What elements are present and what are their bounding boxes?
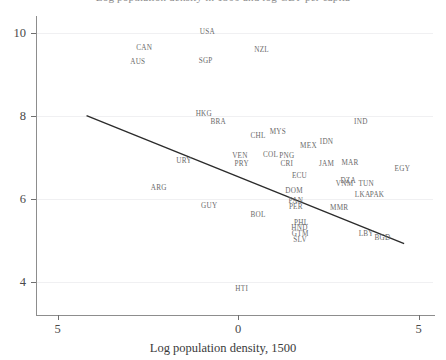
x-tick-mark — [58, 315, 59, 320]
data-point-label: MEX — [300, 142, 317, 150]
data-point-label: TUN — [358, 180, 374, 188]
chart-title: Log population density in 1500 and log G… — [0, 0, 446, 3]
data-point-label: GUY — [201, 202, 217, 210]
data-point-label: VEN — [232, 152, 248, 160]
data-point-label: DOM — [285, 187, 303, 195]
data-point-label: SLV — [293, 236, 307, 244]
plot-area: USACANNZLAUSSGPHKGBRAINDMYSCHLMEXIDNCOLP… — [36, 16, 433, 311]
y-tick-label: 4 — [0, 276, 26, 289]
y-tick-mark — [31, 33, 36, 34]
data-point-label: HTI — [235, 285, 248, 293]
data-point-label: ARG — [151, 184, 167, 192]
data-point-label: JAM — [319, 160, 334, 168]
data-point-label: LBY — [359, 230, 374, 238]
y-tick-mark — [31, 116, 36, 117]
y-axis-line — [36, 16, 37, 315]
y-tick-label: 8 — [0, 110, 26, 123]
y-tick-label: 10 — [0, 27, 26, 40]
data-point-label: MMR — [330, 204, 348, 212]
data-point-label: BGD — [375, 234, 391, 242]
data-point-label: CHL — [250, 132, 265, 140]
data-point-label: BOL — [250, 211, 265, 219]
data-point-label: LKA — [355, 191, 371, 199]
data-point-label: PER — [289, 203, 303, 211]
scatter-chart: Log population density in 1500 and log G… — [0, 0, 446, 360]
data-point-label: IDN — [320, 138, 334, 146]
x-axis-title: Log population density, 1500 — [0, 341, 446, 356]
data-point-label: CAN — [136, 44, 152, 52]
data-point-label: USA — [200, 28, 215, 36]
data-point-label: EGY — [395, 165, 411, 173]
data-point-label: IND — [354, 118, 368, 126]
data-point-label: SGP — [199, 57, 213, 65]
y-tick-label: 6 — [0, 193, 26, 206]
data-point-label: NZL — [254, 46, 269, 54]
data-point-label: PAK — [370, 191, 384, 199]
data-point-label: PRY — [235, 160, 249, 168]
data-point-label: CRI — [280, 160, 293, 168]
data-point-label: ECU — [292, 172, 307, 180]
x-tick-label: 5 — [55, 323, 61, 336]
x-tick-mark — [419, 315, 420, 320]
data-point-label: VNM — [336, 180, 354, 188]
y-tick-mark — [31, 199, 36, 200]
data-point-label: MYS — [270, 128, 286, 136]
x-tick-label: 5 — [415, 323, 421, 336]
data-point-label: MAR — [341, 159, 358, 167]
x-tick-label: 0 — [235, 323, 241, 336]
data-point-label: AUS — [130, 58, 145, 66]
x-tick-mark — [238, 315, 239, 320]
x-axis-line — [36, 315, 435, 316]
y-tick-mark — [31, 282, 36, 283]
data-point-label: BRA — [210, 118, 226, 126]
data-point-label: URY — [176, 157, 192, 165]
data-point-label: COL — [263, 151, 278, 159]
data-point-label: HKG — [196, 110, 212, 118]
